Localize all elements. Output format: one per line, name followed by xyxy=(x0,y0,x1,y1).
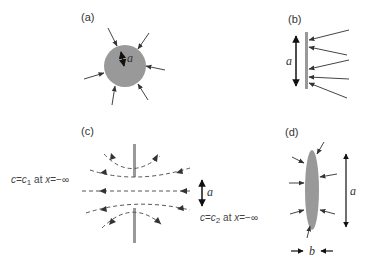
flux-arrow xyxy=(138,33,149,49)
flux-arrow xyxy=(317,142,324,154)
plate xyxy=(305,32,308,89)
flux-arrow xyxy=(138,84,148,100)
sphere xyxy=(104,45,146,87)
left-boundary-condition: c=c1 at x=−∞ xyxy=(11,174,69,187)
plate-flux-arrows xyxy=(309,30,349,98)
flux-arrow xyxy=(112,86,115,105)
right-boundary-condition: c=c2 at x=−∞ xyxy=(200,212,258,225)
flux-arrow xyxy=(309,83,347,98)
flux-arrow xyxy=(307,226,310,238)
panel-b: (b) a xyxy=(286,13,349,98)
flux-arrow xyxy=(309,77,349,79)
flux-arrow xyxy=(292,157,304,163)
slit-lower-wall xyxy=(133,208,136,243)
flux-arrow xyxy=(309,30,349,40)
slit-upper-wall xyxy=(133,144,136,177)
thickness-label: b xyxy=(309,244,315,258)
arrowhead xyxy=(180,188,187,194)
slit-width-label: a xyxy=(207,185,213,199)
panel-d: (d) a b xyxy=(285,126,356,258)
panel-a: (a) a xyxy=(81,11,165,105)
radius-label: a xyxy=(127,51,133,65)
arrowhead xyxy=(154,217,161,224)
flux-arrow xyxy=(309,47,347,55)
flux-arrow xyxy=(290,210,304,214)
flux-arrow xyxy=(320,174,337,177)
flux-arrow xyxy=(146,66,165,70)
ellipsoid-length-label: a xyxy=(350,184,356,198)
arrowhead xyxy=(176,168,183,174)
flux-arrow xyxy=(108,28,117,46)
panel-b-label: (b) xyxy=(288,13,301,25)
panel-c: (c) a c=c1 at x=−∞ c=c2 at x=−∞ xyxy=(11,125,258,243)
arrowhead xyxy=(109,218,116,225)
arrowhead xyxy=(152,154,158,162)
flux-arrow xyxy=(320,210,335,214)
ellipsoid xyxy=(305,150,319,230)
streamline xyxy=(86,204,190,213)
streamline-arrowheads xyxy=(99,153,187,225)
diffusion-geometry-figure: (a) a (b) a (c) xyxy=(0,0,365,265)
panel-a-label: (a) xyxy=(81,11,94,23)
arrowhead xyxy=(99,188,106,194)
panel-c-label: (c) xyxy=(81,125,94,137)
plate-width-label: a xyxy=(286,54,292,68)
arrowhead xyxy=(110,153,116,160)
flux-arrow xyxy=(309,60,349,69)
flux-arrow xyxy=(84,73,104,79)
panel-d-label: (d) xyxy=(285,126,298,138)
